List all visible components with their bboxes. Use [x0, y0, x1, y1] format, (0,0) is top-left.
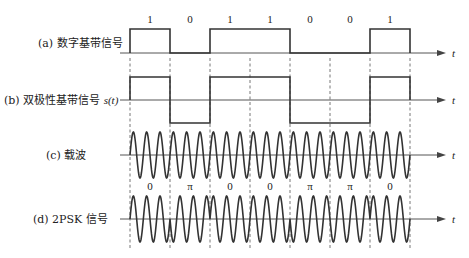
phase-label: 0	[227, 180, 233, 192]
row-d-label: (d) 2PSK 信号	[33, 213, 108, 226]
phase-labels: 0π00ππ0	[147, 180, 393, 192]
bit-label: 1	[227, 13, 233, 25]
phase-label: 0	[147, 180, 153, 192]
row-a-digital-baseband: (a) 数字基带信号 t	[38, 29, 456, 59]
bit-label: 1	[147, 13, 153, 25]
row-c-arrow-icon	[437, 152, 446, 158]
row-b-label-st: s(t)	[104, 94, 119, 107]
bit-label: 1	[267, 13, 273, 25]
phase-label: π	[347, 180, 353, 192]
row-b-label: (b) 双极性基带信号 s(t)	[4, 93, 119, 107]
row-d-t-label: t	[452, 213, 456, 225]
row-a-arrow-icon	[437, 50, 446, 56]
phase-label: π	[307, 180, 313, 192]
waveform-figure: 1011001 0π00ππ0 (a) 数字基带信号 t (b) 双极性基带信号…	[0, 0, 469, 258]
row-b-label-text: (b) 双极性基带信号	[4, 93, 104, 107]
phase-label: 0	[267, 180, 273, 192]
phase-label: 0	[387, 180, 393, 192]
row-c-t-label: t	[452, 149, 456, 161]
row-d-2psk: (d) 2PSK 信号 t	[33, 196, 456, 242]
bit-value-labels: 1011001	[147, 13, 393, 25]
row-b-bipolar-baseband: (b) 双极性基带信号 s(t) t	[4, 77, 456, 123]
bit-label: 0	[187, 13, 193, 25]
row-a-t-label: t	[452, 47, 456, 59]
row-d-arrow-icon	[437, 216, 446, 222]
phase-label: π	[187, 180, 193, 192]
row-a-label: (a) 数字基带信号	[38, 36, 123, 50]
bit-label: 1	[387, 13, 393, 25]
row-c-label: (c) 载波	[46, 149, 86, 162]
row-c-carrier: (c) 载波 t	[46, 132, 456, 178]
bit-label: 0	[347, 13, 353, 25]
2psk-waveform-diagram: 1011001 0π00ππ0 (a) 数字基带信号 t (b) 双极性基带信号…	[0, 0, 469, 258]
row-a-waveform	[130, 29, 410, 53]
bit-label: 0	[307, 13, 313, 25]
row-b-t-label: t	[452, 94, 456, 106]
row-b-arrow-icon	[437, 97, 446, 103]
